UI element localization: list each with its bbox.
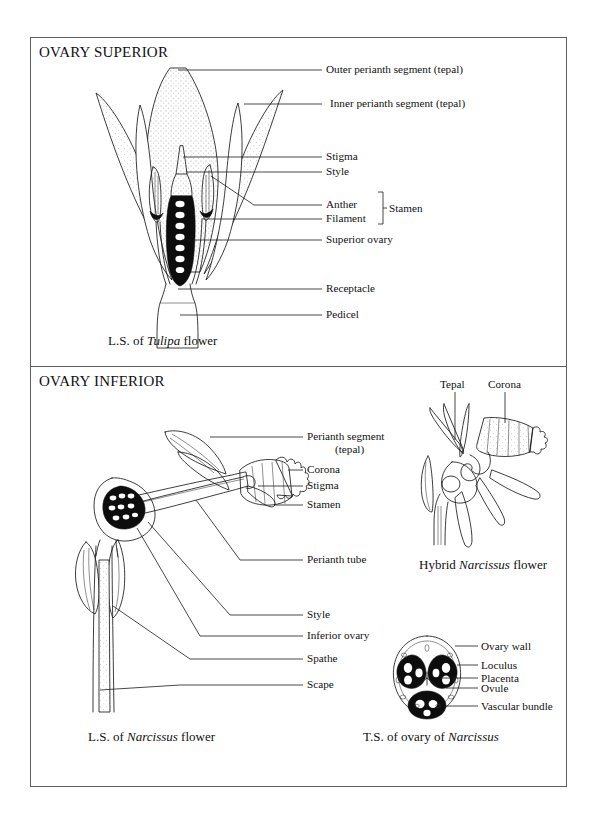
caption-suffix: flower — [180, 333, 217, 348]
caption-suffix: flower — [510, 557, 547, 572]
label-loculus: Loculus — [481, 659, 517, 672]
label-ovule: Ovule — [481, 682, 508, 695]
label-ovary-wall: Ovary wall — [481, 640, 531, 653]
label-pedicel: Pedicel — [326, 308, 359, 321]
label-stamen-inferior: Stamen — [307, 498, 341, 511]
label-superior-ovary: Superior ovary — [326, 233, 393, 246]
diagram-sheet: OVARY SUPERIOR OVARY INFERIOR Outer peri… — [0, 0, 590, 836]
label-stigma-inferior: Stigma — [307, 479, 339, 492]
label-outer-perianth-segment: Outer perianth segment (tepal) — [326, 63, 463, 76]
label-inferior-ovary: Inferior ovary — [307, 629, 369, 642]
caption-ts-ovary-narcissus: T.S. of ovary of Narcissus — [363, 729, 499, 745]
label-stigma: Stigma — [326, 150, 358, 163]
panel-divider — [30, 366, 567, 367]
label-style-inferior: Style — [307, 608, 330, 621]
label-inner-perianth-segment: Inner perianth segment (tepal) — [330, 97, 465, 110]
caption-prefix: T.S. of ovary of — [363, 729, 448, 744]
label-perianth-segment: Perianth segment — [307, 430, 384, 443]
caption-species: Narcissus — [448, 729, 499, 744]
label-spathe: Spathe — [307, 652, 337, 665]
label-style: Style — [326, 165, 349, 178]
label-perianth-tube: Perianth tube — [307, 553, 366, 566]
label-anther: Anther — [326, 198, 357, 211]
label-hybrid-tepal: Tepal — [440, 378, 465, 391]
label-receptacle: Receptacle — [326, 282, 375, 295]
caption-prefix: L.S. of — [88, 729, 127, 744]
label-perianth-segment-tepal: (tepal) — [335, 443, 364, 456]
panel-title-ovary-inferior: OVARY INFERIOR — [39, 373, 165, 390]
caption-species: Tulipa — [147, 333, 180, 348]
caption-species: Narcissus — [459, 557, 510, 572]
panel-title-ovary-superior: OVARY SUPERIOR — [39, 44, 168, 61]
caption-species: Narcissus — [127, 729, 178, 744]
label-stamen-bracket: Stamen — [389, 202, 423, 215]
caption-tulipa-ls: L.S. of Tulipa flower — [108, 333, 217, 349]
caption-suffix: flower — [178, 729, 215, 744]
caption-prefix: Hybrid — [419, 557, 459, 572]
label-filament: Filament — [326, 212, 366, 225]
label-hybrid-corona: Corona — [488, 378, 521, 391]
label-vascular-bundle: Vascular bundle — [481, 700, 553, 713]
caption-hybrid-narcissus: Hybrid Narcissus flower — [419, 557, 547, 573]
label-scape: Scape — [307, 678, 334, 691]
caption-narcissus-ls: L.S. of Narcissus flower — [88, 729, 215, 745]
label-corona: Corona — [307, 463, 340, 476]
caption-prefix: L.S. of — [108, 333, 147, 348]
